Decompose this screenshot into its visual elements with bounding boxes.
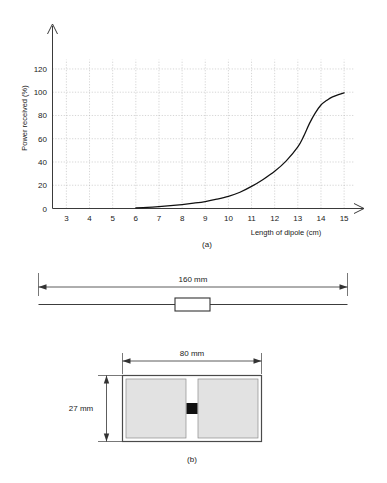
x-tick-label: 5	[110, 214, 115, 223]
panel-height-label: 27 mm	[69, 404, 94, 413]
height-arrow-top-icon	[104, 376, 109, 384]
width-arrow-left-icon	[123, 358, 131, 363]
panel-b-caption: (b)	[187, 455, 197, 464]
dipole-feed-box	[175, 298, 210, 311]
dipole-diagram: 160 mm	[39, 273, 348, 311]
dimension-arrow-right-icon	[340, 284, 348, 290]
panel-antenna-diagram: 80 mm 27 mm (b)	[69, 349, 262, 464]
dimension-arrow-left-icon	[39, 284, 47, 290]
x-tick-labels: 3456789101112131415	[64, 214, 349, 223]
x-tick-label: 3	[64, 214, 69, 223]
figure-canvas: 3456789101112131415 020406080100120 Leng…	[0, 0, 387, 483]
power-received-curve	[136, 93, 344, 208]
y-tick-label: 40	[38, 158, 47, 167]
width-arrow-right-icon	[254, 358, 262, 363]
x-tick-label: 4	[87, 214, 92, 223]
height-arrow-bottom-icon	[104, 434, 109, 442]
x-tick-label: 7	[157, 214, 162, 223]
x-tick-label: 15	[340, 214, 349, 223]
panel-width-label: 80 mm	[180, 349, 205, 358]
y-tick-labels: 020406080100120	[34, 65, 48, 214]
x-tick-label: 10	[224, 214, 233, 223]
panel-a-caption: (a)	[202, 240, 212, 249]
chart-panel: 3456789101112131415 020406080100120 Leng…	[20, 24, 364, 249]
y-tick-label: 20	[38, 181, 47, 190]
x-tick-label: 11	[247, 214, 256, 223]
chart-grid-vertical	[66, 60, 344, 209]
x-tick-label: 12	[270, 214, 279, 223]
panel-plate-left	[126, 379, 186, 438]
x-tick-label: 13	[293, 214, 302, 223]
y-axis-title: Power received (%)	[20, 85, 29, 151]
panel-feed-point	[187, 403, 198, 414]
x-tick-label: 14	[317, 214, 326, 223]
dipole-length-label: 160 mm	[179, 275, 208, 284]
panel-plate-right	[198, 379, 258, 438]
x-tick-label: 6	[134, 214, 139, 223]
y-tick-label: 120	[34, 65, 48, 74]
x-axis-title: Length of dipole (cm)	[251, 228, 322, 237]
chart-grid-horizontal	[53, 69, 355, 185]
figure-root: 3456789101112131415 020406080100120 Leng…	[0, 0, 387, 483]
y-tick-label: 60	[38, 135, 47, 144]
x-tick-label: 8	[180, 214, 185, 223]
y-tick-label: 100	[34, 88, 48, 97]
y-tick-label: 80	[38, 111, 47, 120]
x-tick-label: 9	[203, 214, 208, 223]
y-tick-label: 0	[43, 205, 48, 214]
